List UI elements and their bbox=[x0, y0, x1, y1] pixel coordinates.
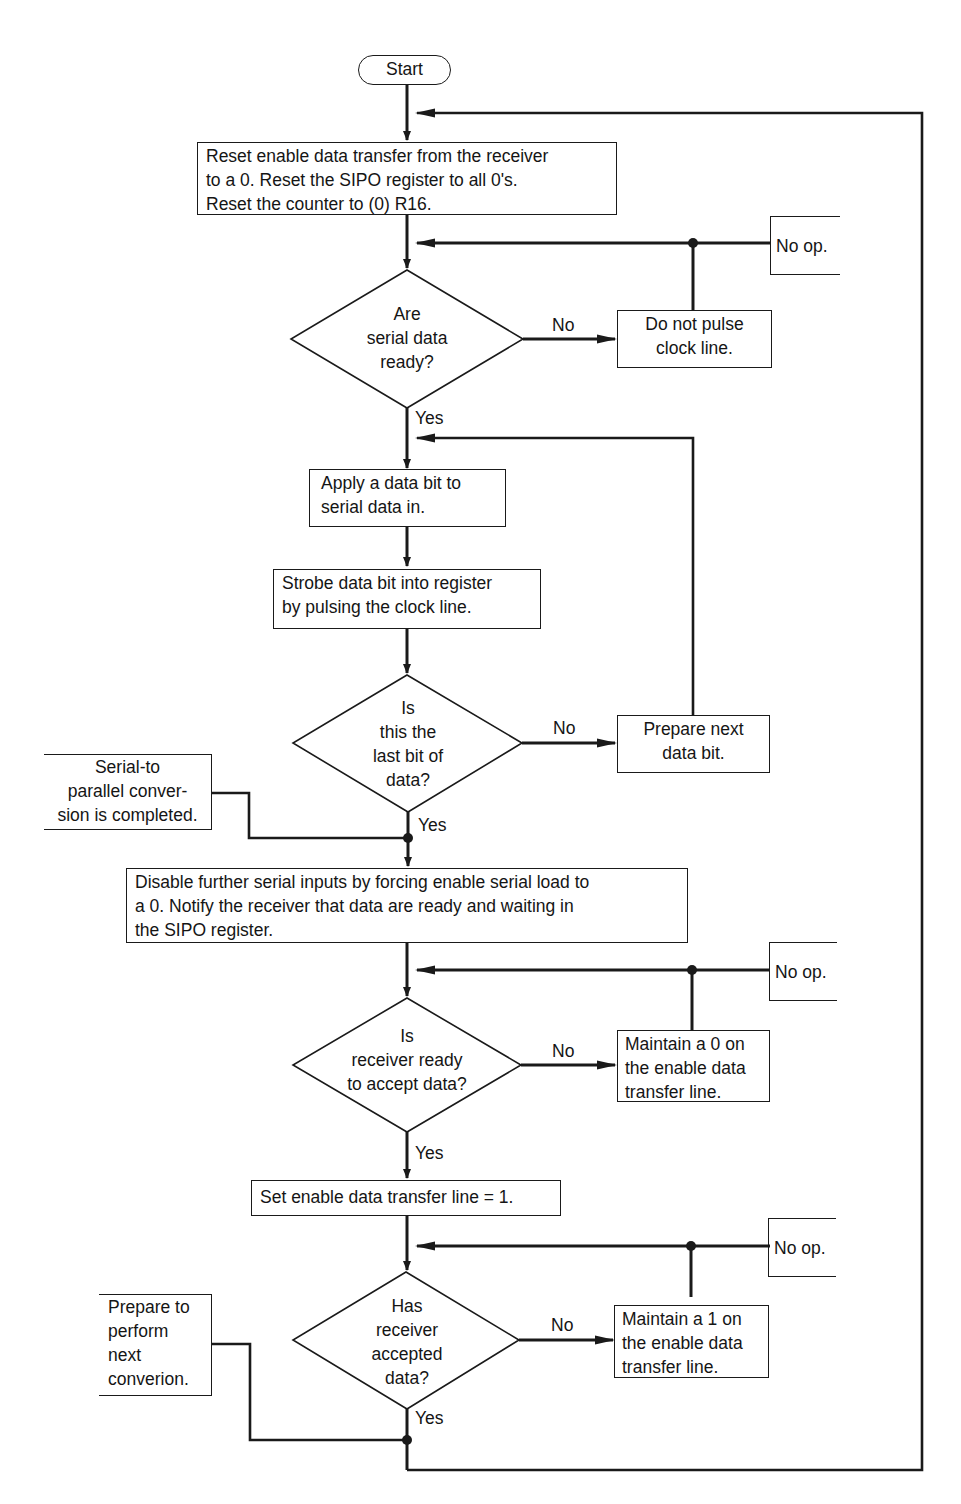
decision-line: Is bbox=[400, 1024, 414, 1048]
annotation-line: next bbox=[108, 1343, 211, 1367]
decision-receiver-accepted: Has receiver accepted data? bbox=[330, 1290, 484, 1394]
reset-process-box: Reset enable data transfer from the rece… bbox=[197, 142, 617, 215]
decision-receiver-ready: Is receiver ready to accept data? bbox=[320, 1022, 494, 1098]
box-line: Prepare next bbox=[626, 717, 761, 741]
box-line: data bit. bbox=[626, 741, 761, 765]
box-line: Apply a data bit to bbox=[321, 471, 497, 495]
decision-line: receiver bbox=[376, 1318, 438, 1342]
decision-line: to accept data? bbox=[347, 1072, 467, 1096]
reset-line-1: Reset enable data transfer from the rece… bbox=[206, 144, 608, 168]
box-line: by pulsing the clock line. bbox=[282, 595, 532, 619]
decision3-no-label: No bbox=[552, 1041, 574, 1061]
maintain-0-box: Maintain a 0 on the enable data transfer… bbox=[617, 1030, 770, 1102]
decision4-no-label: No bbox=[551, 1315, 573, 1335]
maintain-1-box: Maintain a 1 on the enable data transfer… bbox=[614, 1305, 769, 1378]
prepare-next-bit-box: Prepare next data bit. bbox=[617, 715, 770, 773]
annotation-next-conversion: Prepare to perform next converion. bbox=[99, 1294, 212, 1396]
decision-line: this the bbox=[380, 720, 436, 744]
junction-dot bbox=[403, 833, 413, 843]
junction-dot bbox=[688, 238, 698, 248]
noop-box-3: No op. bbox=[768, 1218, 836, 1277]
decision1-no-label: No bbox=[552, 315, 574, 335]
box-line: the enable data bbox=[625, 1056, 761, 1080]
junction-dot bbox=[402, 1435, 412, 1445]
box-line: the SIPO register. bbox=[135, 918, 679, 942]
start-terminator: Start bbox=[358, 55, 451, 85]
junction-dot bbox=[686, 1241, 696, 1251]
box-line: transfer line. bbox=[625, 1080, 761, 1104]
annotation-line: parallel conver- bbox=[44, 779, 211, 803]
box-line: Disable further serial inputs by forcing… bbox=[135, 870, 679, 894]
decision-line: accepted bbox=[371, 1342, 442, 1366]
reset-line-2: to a 0. Reset the SIPO register to all 0… bbox=[206, 168, 608, 192]
annotation-line: Prepare to bbox=[108, 1295, 211, 1319]
reset-line-3: Reset the counter to (0) R16. bbox=[206, 192, 608, 216]
annotation-line: converion. bbox=[108, 1367, 211, 1391]
decision-line: receiver ready bbox=[352, 1048, 463, 1072]
box-line: the enable data bbox=[622, 1331, 760, 1355]
noop-label: No op. bbox=[776, 234, 828, 258]
box-line: a 0. Notify the receiver that data are r… bbox=[135, 894, 679, 918]
annotation-line: perform bbox=[108, 1319, 211, 1343]
box-line: transfer line. bbox=[622, 1355, 760, 1379]
decision-line: data? bbox=[385, 1366, 429, 1390]
start-label: Start bbox=[386, 59, 423, 79]
box-line: Maintain a 1 on bbox=[622, 1307, 760, 1331]
strobe-box: Strobe data bit into register by pulsing… bbox=[273, 569, 541, 629]
noop-box-1: No op. bbox=[770, 216, 840, 275]
annotation-line: Serial-to bbox=[44, 755, 211, 779]
decision3-yes-label: Yes bbox=[415, 1143, 444, 1163]
decision-line: ready? bbox=[380, 350, 434, 374]
noop-label: No op. bbox=[775, 960, 827, 984]
annotation-line: sion is completed. bbox=[44, 803, 211, 827]
box-line: Maintain a 0 on bbox=[625, 1032, 761, 1056]
box-line: clock line. bbox=[626, 336, 763, 360]
noop-box-2: No op. bbox=[769, 942, 837, 1001]
decision4-yes-label: Yes bbox=[415, 1408, 444, 1428]
decision-line: last bit of bbox=[373, 744, 443, 768]
decision-line: Is bbox=[401, 696, 415, 720]
decision-last-bit: Is this the last bit of data? bbox=[330, 688, 486, 800]
junction-dot bbox=[687, 965, 697, 975]
decision2-no-label: No bbox=[553, 718, 575, 738]
decision-line: Are bbox=[393, 302, 420, 326]
disable-process-box: Disable further serial inputs by forcing… bbox=[126, 868, 688, 943]
set-enable-box: Set enable data transfer line = 1. bbox=[251, 1180, 561, 1216]
decision-line: Has bbox=[391, 1294, 422, 1318]
box-line: Set enable data transfer line = 1. bbox=[260, 1185, 552, 1209]
decision-serial-ready: Are serial data ready? bbox=[320, 290, 494, 386]
box-line: serial data in. bbox=[321, 495, 497, 519]
noop-label: No op. bbox=[774, 1236, 826, 1260]
decision-line: serial data bbox=[367, 326, 448, 350]
annotation-conversion-complete: Serial-to parallel conver- sion is compl… bbox=[44, 754, 212, 830]
decision2-yes-label: Yes bbox=[418, 815, 447, 835]
decision1-yes-label: Yes bbox=[415, 408, 444, 428]
apply-bit-box: Apply a data bit to serial data in. bbox=[309, 469, 506, 527]
box-line: Strobe data bit into register bbox=[282, 571, 532, 595]
box-line: Do not pulse bbox=[626, 312, 763, 336]
do-not-pulse-box: Do not pulse clock line. bbox=[617, 310, 772, 368]
decision-line: data? bbox=[386, 768, 430, 792]
